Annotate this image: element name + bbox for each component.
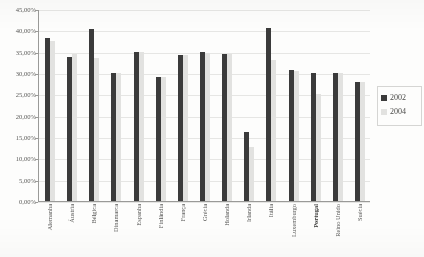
bar-2004-grécia[interactable] (205, 53, 210, 201)
legend-swatch-icon (381, 95, 387, 101)
y-axis-tick-label: 15,00% (2, 135, 36, 141)
bar-2004-alemanha[interactable] (50, 41, 55, 201)
legend-label: 2002 (390, 94, 406, 102)
x-axis-label-dinamarca: Dinamarca (110, 203, 121, 257)
bar-2004-reino-unido[interactable] (338, 73, 343, 201)
bar-group[interactable] (311, 10, 321, 201)
x-axis-label-irlanda: Irlanda (243, 203, 254, 257)
bar-group[interactable] (289, 10, 299, 201)
x-axis-label-alemanha: Alemanha (44, 203, 55, 257)
y-axis-tick-label: 0,00% (2, 199, 36, 205)
x-axis-line (38, 201, 370, 202)
bar-group[interactable] (67, 10, 77, 201)
bar-2004-luxemburgo[interactable] (294, 71, 299, 201)
x-axis-label-grécia: Grécia (199, 203, 210, 257)
x-axis-label-suécia: Suécia (354, 203, 365, 257)
bar-2004-dinamarca[interactable] (116, 73, 121, 201)
x-axis-category-labels: AlemanhaÁustriaBélgicaDinamarcaEspanhaFi… (38, 203, 370, 257)
y-axis-tick-label: 25,00% (2, 92, 36, 98)
y-axis-tick-label: 10,00% (2, 156, 36, 162)
bar-2004-irlanda[interactable] (249, 147, 254, 201)
x-axis-label-reino-unido: Reino Unido (332, 203, 343, 257)
bar-group[interactable] (200, 10, 210, 201)
legend-swatch-icon (381, 109, 387, 115)
y-axis-labels: 45,00%40,00%35,00%30,00%25,00%20,00%15,0… (0, 10, 36, 202)
bar-group[interactable] (178, 10, 188, 201)
y-axis-tick-label: 30,00% (2, 71, 36, 77)
chart-legend: 20022004 (377, 86, 422, 126)
x-axis-label-holanda: Holanda (221, 203, 232, 257)
legend-label: 2004 (390, 108, 406, 116)
bar-group[interactable] (333, 10, 343, 201)
bar-group[interactable] (244, 10, 254, 201)
x-axis-label-itália: Itália (265, 203, 276, 257)
y-axis-tick-label: 5,00% (2, 178, 36, 184)
x-axis-label-frança: França (177, 203, 188, 257)
bar-group[interactable] (222, 10, 232, 201)
y-axis-tick-label: 45,00% (2, 7, 36, 13)
x-axis-label-portugal: Portugal (310, 203, 321, 257)
y-axis-tick-label: 40,00% (2, 28, 36, 34)
bar-group[interactable] (355, 10, 365, 201)
y-axis-tick-label: 20,00% (2, 114, 36, 120)
chart-title (60, 0, 360, 1)
bar-group[interactable] (111, 10, 121, 201)
x-axis-label-áustria: Áustria (66, 203, 77, 257)
bar-2004-finlândia[interactable] (161, 77, 166, 201)
x-axis-label-bélgica: Bélgica (88, 203, 99, 257)
legend-item-2004[interactable]: 2004 (381, 105, 421, 119)
y-axis-tick-label: 35,00% (2, 50, 36, 56)
bar-2004-holanda[interactable] (227, 54, 232, 201)
bar-group[interactable] (134, 10, 144, 201)
bar-chart: 45,00%40,00%35,00%30,00%25,00%20,00%15,0… (0, 0, 424, 257)
y-axis-line (38, 10, 39, 202)
bar-2004-suécia[interactable] (360, 82, 365, 201)
bar-2004-portugal[interactable] (316, 94, 321, 201)
plot-area (38, 10, 370, 202)
bar-2004-espanha[interactable] (139, 52, 144, 201)
x-axis-label-luxemburgo: Luxemburgo (288, 203, 299, 257)
bar-2004-bélgica[interactable] (94, 58, 99, 201)
bar-group[interactable] (266, 10, 276, 201)
x-axis-label-espanha: Espanha (133, 203, 144, 257)
bar-group[interactable] (89, 10, 99, 201)
x-axis-label-finlândia: Finlândia (155, 203, 166, 257)
bar-group[interactable] (45, 10, 55, 201)
bar-2004-áustria[interactable] (72, 54, 77, 201)
bar-group[interactable] (156, 10, 166, 201)
legend-item-2002[interactable]: 2002 (381, 91, 421, 105)
bar-2004-frança[interactable] (183, 55, 188, 201)
bar-2004-itália[interactable] (271, 60, 276, 201)
